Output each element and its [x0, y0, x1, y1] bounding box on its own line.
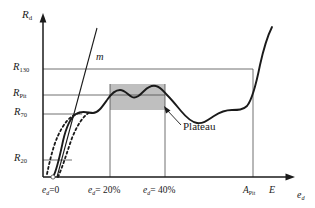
- dotted-curve-left: [47, 112, 82, 174]
- y-axis-arrowhead: [40, 13, 47, 23]
- x-axis-end-label-text: E: [269, 184, 275, 195]
- x-axis-label: ed: [297, 190, 305, 200]
- y-axis-label: Rd: [22, 9, 32, 20]
- x-tick-ed20: ed= 20%: [88, 186, 120, 196]
- plateau-label: Plateau: [183, 121, 215, 132]
- y-tick-r70: R70: [14, 107, 27, 118]
- slope-label: m: [96, 52, 104, 63]
- x-tick-ed40-sub: d: [147, 190, 150, 196]
- x-tick-apit: APit: [243, 186, 255, 196]
- plot-canvas: [0, 0, 315, 208]
- x-tick-apit-base: A: [243, 185, 249, 195]
- x-tick-ed20-eq: = 20%: [95, 185, 120, 195]
- x-axis-label-sub: d: [301, 194, 304, 201]
- x-tick-ed40: ed= 40%: [143, 186, 175, 196]
- plateau-arrow-line: [167, 110, 181, 125]
- figure-container: Rd R130 RPit R70 R20 ed=0 ed= 20% ed= 40…: [0, 0, 315, 208]
- y-tick-r20: R20: [14, 153, 27, 164]
- y-tick-r70-sub: 70: [20, 111, 27, 118]
- x-axis-end-label: E: [269, 185, 275, 195]
- y-tick-rpit-sub: Pit: [19, 92, 26, 99]
- x-tick-ed0: ed=0: [42, 186, 59, 196]
- y-axis-label-sub: d: [29, 14, 32, 21]
- y-axis-label-base: R: [22, 8, 29, 20]
- x-tick-ed0-eq: =0: [49, 185, 59, 195]
- x-tick-ed20-sub: d: [92, 190, 95, 196]
- y-tick-r130: R130: [13, 62, 29, 73]
- x-tick-ed40-eq: = 40%: [150, 185, 175, 195]
- tangent-slope-line: [57, 28, 97, 177]
- x-tick-apit-sub: Pit: [249, 190, 256, 196]
- origin-marker: [51, 175, 55, 179]
- x-axis-arrowhead: [286, 174, 296, 181]
- x-tick-ed0-sub: d: [46, 190, 49, 196]
- y-tick-rpit: RPit: [13, 88, 27, 99]
- y-tick-r130-sub: 130: [19, 66, 29, 73]
- y-tick-r20-sub: 20: [20, 157, 27, 164]
